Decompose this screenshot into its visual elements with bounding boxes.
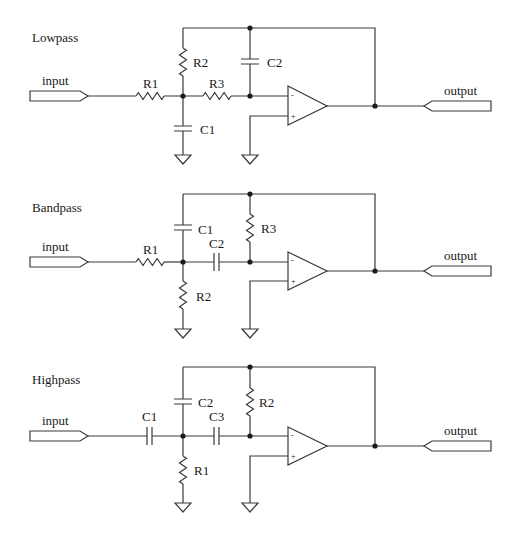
component-label: R2 xyxy=(196,289,211,304)
resistor-r3[interactable] xyxy=(203,93,231,100)
ground-icon xyxy=(242,329,258,338)
circuit-title: Bandpass xyxy=(32,200,82,215)
opamp-plus-pin: + xyxy=(291,452,296,461)
component-label: R2 xyxy=(193,55,208,70)
ground-icon xyxy=(175,329,191,338)
component-label: C2 xyxy=(267,55,282,70)
output-label: output xyxy=(444,423,478,438)
resistor-r2[interactable] xyxy=(247,388,254,416)
component-label: C1 xyxy=(142,409,157,424)
input-port[interactable] xyxy=(30,431,88,441)
component-label: R3 xyxy=(209,76,224,91)
output-label: output xyxy=(444,83,478,98)
opamp-plus-pin: + xyxy=(291,277,296,286)
input-port[interactable] xyxy=(30,91,88,101)
ground-icon xyxy=(175,503,191,512)
output-port[interactable] xyxy=(424,441,491,451)
component-label: R1 xyxy=(143,76,158,91)
component-label: R1 xyxy=(194,463,209,478)
circuit-title: Highpass xyxy=(32,372,80,387)
component-label: C2 xyxy=(209,236,224,251)
highpass-circuit: Highpass input C1 C3 C2 R2 R1 - xyxy=(30,364,491,512)
opamp-minus-pin: - xyxy=(291,256,294,265)
output-label: output xyxy=(444,248,478,263)
ground-icon xyxy=(242,503,258,512)
output-port[interactable] xyxy=(424,101,491,111)
bandpass-circuit: Bandpass input R1 C2 C1 R3 R2 xyxy=(30,191,491,338)
resistor-r3[interactable] xyxy=(247,214,254,242)
resistor-r1[interactable] xyxy=(180,456,187,484)
component-label: C3 xyxy=(209,409,224,424)
resistor-r1[interactable] xyxy=(136,259,164,266)
resistor-r2[interactable] xyxy=(180,48,187,76)
ground-icon xyxy=(175,155,191,164)
component-label: C1 xyxy=(200,122,215,137)
resistor-r2[interactable] xyxy=(180,281,187,309)
lowpass-circuit: Lowpass input R1 R3 R2 C2 C1 xyxy=(30,25,491,164)
component-label: R3 xyxy=(261,221,276,236)
component-label: C1 xyxy=(198,222,213,237)
input-label: input xyxy=(42,413,69,428)
component-label: C2 xyxy=(198,395,213,410)
opamp-minus-pin: - xyxy=(291,91,294,100)
component-label: R2 xyxy=(259,395,274,410)
output-port[interactable] xyxy=(424,266,491,276)
resistor-r1[interactable] xyxy=(136,93,164,100)
ground-icon xyxy=(242,155,258,164)
circuit-title: Lowpass xyxy=(32,30,78,45)
opamp-plus-pin: + xyxy=(291,112,296,121)
input-label: input xyxy=(42,73,69,88)
input-port[interactable] xyxy=(30,257,88,267)
opamp-minus-pin: - xyxy=(291,431,294,440)
component-label: R1 xyxy=(143,242,158,257)
input-label: input xyxy=(42,239,69,254)
